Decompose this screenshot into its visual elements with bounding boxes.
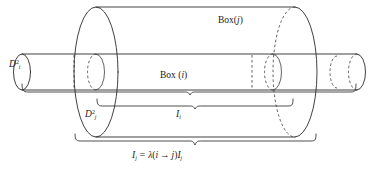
large-tube-right-cap-front-arc (295, 7, 317, 137)
cross-section-left-back-arc (88, 54, 97, 90)
label-box-j-prefix: Box( (218, 15, 237, 25)
brace-interval-j (75, 134, 316, 145)
large-tube-right-cap-back-arc (273, 7, 295, 137)
label-disk-j: D2j (85, 110, 96, 121)
thin-cylinder-box-i (14, 54, 366, 90)
cross-section-right-front-arc (273, 54, 282, 90)
label-box-j-suffix: ) (240, 15, 243, 25)
label-box-j: Box(j) (218, 16, 243, 26)
cross-section-right-back-arc (265, 54, 273, 90)
label-disk-j-base: D (85, 109, 92, 119)
cross-section-left-front-arc (96, 54, 105, 90)
formula-equals: = (137, 150, 148, 160)
label-interval-i-subscript: i (179, 114, 181, 120)
brace-thin-tube-path (22, 84, 356, 95)
label-box-i-prefix: Box ( (160, 70, 181, 80)
box-inclusion-diagram (0, 0, 379, 176)
brace-thin-tube (22, 84, 356, 95)
cross-section-far-right-back-arc (330, 56, 337, 88)
label-disk-i-subscript: i (19, 64, 21, 70)
label-box-i: Box (i) (160, 71, 187, 81)
brace-interval-i-path (97, 99, 293, 109)
label-disk-i: D2i (9, 60, 20, 71)
brace-interval-i (97, 99, 293, 109)
large-cylinder-box-j (74, 7, 317, 137)
label-disk-i-base: D (9, 59, 16, 69)
label-interval-i: Ii (176, 110, 181, 121)
thin-tube-cross-sections (74, 54, 337, 90)
figure-container: Box(j) Box (i) D2i D2j Ii Ij=λ(i→j)Ij (0, 0, 379, 176)
label-formula-interval-j: Ij=λ(i→j)Ij (132, 151, 182, 162)
formula-rhs-subscript: j (181, 155, 183, 161)
brace-interval-j-path (75, 134, 316, 145)
label-box-i-suffix: ) (184, 70, 187, 80)
label-disk-j-subscript: j (95, 114, 97, 120)
thin-tube-right-cap-front-arc (357, 54, 366, 90)
formula-arrow: → (158, 150, 172, 160)
